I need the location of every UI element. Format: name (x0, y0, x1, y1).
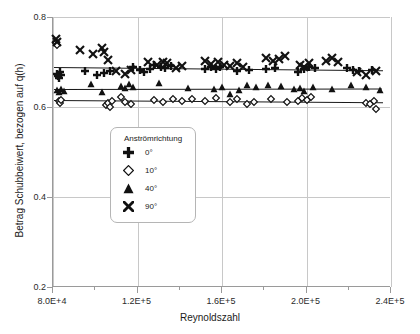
cross-marker-icon (111, 201, 145, 212)
data-point-10deg (108, 97, 116, 105)
x-tick-major (52, 287, 53, 293)
x-tick-label: 8.0E+4 (38, 296, 67, 306)
y-axis-title: Betrag Schubbeiwert, bezogen auf q(h) (14, 36, 25, 266)
x-tick-label: 1.6E+5 (207, 296, 236, 306)
y-tick (47, 17, 52, 18)
data-point-10deg (201, 97, 209, 105)
data-point-90deg (362, 71, 370, 79)
data-point-90deg (163, 59, 171, 67)
data-point-40deg (277, 82, 285, 90)
data-point-40deg (129, 83, 137, 91)
data-point-40deg (60, 87, 68, 95)
diamond-marker-icon (111, 165, 145, 176)
legend-item-label: 10° (145, 166, 157, 175)
legend-item-label: 0° (145, 148, 153, 157)
data-point-40deg (309, 83, 317, 91)
data-point-90deg (53, 38, 61, 46)
data-point-40deg (87, 80, 95, 88)
gridline-vertical (53, 17, 54, 287)
data-point-90deg (104, 56, 112, 64)
data-point-10deg (178, 97, 186, 105)
data-point-90deg (305, 59, 313, 67)
x-tick-minor (348, 287, 349, 290)
x-tick-major (221, 287, 222, 293)
plot-area (52, 17, 390, 287)
y-tick (47, 107, 52, 108)
y-tick-label: 0.2 (26, 282, 46, 292)
legend-item-90deg[interactable]: 90° (111, 198, 195, 215)
gridline-vertical (222, 17, 223, 287)
data-point-40deg (300, 87, 308, 95)
data-point-90deg (281, 52, 289, 60)
plus-marker-icon (111, 147, 145, 158)
data-point-10deg (283, 98, 291, 106)
data-point-10deg (250, 98, 258, 106)
triangle-marker-icon (111, 183, 145, 194)
data-point-10deg (127, 100, 135, 108)
y-tick (47, 197, 52, 198)
data-point-40deg (328, 85, 336, 93)
data-point-40deg (155, 79, 163, 87)
data-point-10deg (57, 96, 65, 104)
data-point-40deg (210, 85, 218, 93)
legend-items: 0°10°40°90° (111, 144, 195, 215)
data-point-10deg (370, 97, 378, 105)
data-point-10deg (169, 95, 177, 103)
x-tick-label: 1.2E+5 (122, 296, 151, 306)
data-point-0deg (57, 71, 65, 79)
y-tick-label: 0.6 (26, 102, 46, 112)
legend-item-40deg[interactable]: 40° (111, 180, 195, 197)
data-point-40deg (243, 81, 251, 89)
data-point-40deg (376, 86, 384, 94)
data-point-90deg (372, 67, 380, 75)
x-tick-major (306, 287, 307, 293)
data-point-90deg (334, 58, 342, 66)
legend-item-10deg[interactable]: 10° (111, 162, 195, 179)
gridline-horizontal (53, 197, 390, 198)
data-point-90deg (178, 62, 186, 70)
data-point-90deg (112, 67, 120, 75)
data-point-40deg (252, 83, 260, 91)
y-tick-label: 0.8 (26, 12, 46, 22)
data-point-90deg (100, 48, 108, 56)
y-tick-label: 0.4 (26, 192, 46, 202)
x-tick-label: 2.0E+5 (291, 296, 320, 306)
data-point-10deg (150, 96, 158, 104)
x-tick-major (137, 287, 138, 293)
x-tick-label: 2.4E+5 (376, 296, 405, 306)
legend-item-0deg[interactable]: 0° (111, 144, 195, 161)
data-point-90deg (144, 58, 152, 66)
data-point-40deg (362, 83, 370, 91)
chart-root: 8.0E+41.2E+51.6E+52.0E+52.4E+5 0.80.60.4… (0, 0, 420, 334)
legend-item-label: 40° (145, 184, 157, 193)
data-point-10deg (372, 105, 380, 113)
legend-title: Anströmrichtung (111, 134, 195, 143)
data-point-90deg (89, 50, 97, 58)
data-point-90deg (76, 46, 84, 54)
y-tick (47, 287, 52, 288)
x-axis-title: Reynoldszahl (0, 312, 420, 323)
gridline-horizontal (53, 17, 390, 18)
data-point-40deg (264, 81, 272, 89)
legend-box: Anströmrichtung 0°10°40°90° (110, 127, 196, 223)
data-point-40deg (226, 90, 234, 98)
data-point-40deg (347, 81, 355, 89)
data-point-10deg (159, 98, 167, 106)
data-point-40deg (98, 88, 106, 96)
data-point-90deg (353, 68, 361, 76)
data-point-10deg (212, 94, 220, 102)
x-tick-minor (263, 287, 264, 290)
gridline-vertical (307, 17, 308, 287)
data-point-40deg (218, 83, 226, 91)
x-tick-minor (179, 287, 180, 290)
data-point-90deg (239, 63, 247, 71)
x-tick-major (390, 287, 391, 293)
data-point-40deg (235, 86, 243, 94)
data-point-10deg (188, 95, 196, 103)
x-tick-minor (94, 287, 95, 290)
gridline-vertical (391, 17, 392, 287)
data-point-0deg (81, 67, 89, 75)
data-point-0deg (262, 65, 270, 73)
legend-item-label: 90° (145, 202, 157, 211)
data-point-40deg (184, 84, 192, 92)
